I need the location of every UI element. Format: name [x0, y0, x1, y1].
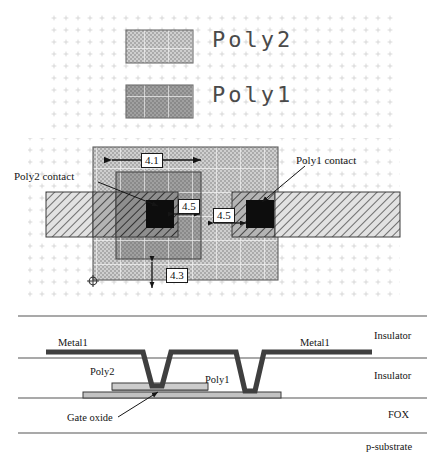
dim-box-4-1: 4.1 — [141, 153, 163, 168]
annotation-poly1-contact: Poly1 contact — [296, 154, 356, 166]
figure-root: Poly2 Poly1 Poly2 contact Poly1 contact … — [0, 0, 445, 460]
xsec-label-gate-oxide: Gate oxide — [67, 412, 113, 423]
legend-label-poly1: Poly1 — [212, 82, 293, 107]
layer-label-fox: FOX — [388, 409, 409, 420]
xsec-label-metal1-left: Metal1 — [58, 337, 88, 348]
dim-box-4-5-left: 4.5 — [178, 199, 200, 214]
layer-label-insulator-top: Insulator — [374, 330, 411, 341]
poly1-contact-square — [246, 200, 274, 228]
layer-label-p-substrate: p-substrate — [366, 441, 412, 452]
dim-box-4-3: 4.3 — [166, 268, 188, 283]
annotation-poly2-contact: Poly2 contact — [14, 170, 74, 182]
figure-canvas — [0, 0, 445, 460]
xsec-label-poly2: Poly2 — [90, 366, 115, 377]
poly2-swatch — [126, 30, 193, 63]
legend-label-poly2: Poly2 — [212, 27, 293, 52]
poly1-swatch — [126, 85, 193, 118]
layer-label-insulator-mid: Insulator — [374, 370, 411, 381]
dim-box-4-5-right: 4.5 — [213, 208, 235, 223]
xsec-label-metal1-right: Metal1 — [300, 337, 330, 348]
xsec-label-poly1: Poly1 — [205, 374, 230, 385]
xsec-metal1-left — [46, 352, 212, 386]
poly2-contact-square — [146, 200, 174, 228]
